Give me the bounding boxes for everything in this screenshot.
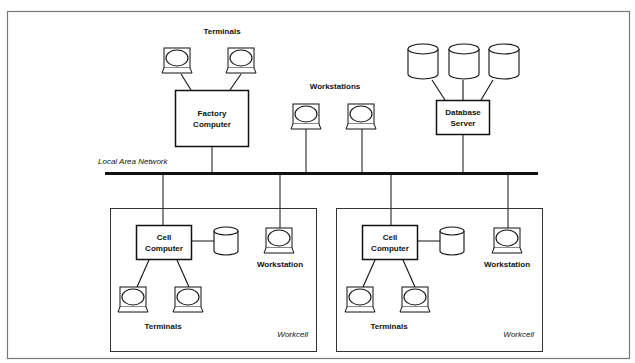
factory-computer-line1: Factory [193,108,231,119]
cell-computer-left-line2: Computer [145,243,183,254]
terminals-right-label: Terminals [359,322,419,332]
factory-computer-label: Factory Computer [176,91,248,146]
factory-computer-line2: Computer [193,119,231,130]
workcell-right-label: Workcell [484,330,534,340]
workstation-icons [291,104,376,129]
database-server-line2: Server [445,118,481,129]
workstations-label: Workstations [300,82,370,92]
terminals-left-label: Terminals [133,322,193,332]
workcell-left-label: Workcell [258,330,308,340]
database-disks [408,44,519,79]
cell-computer-right-line2: Computer [371,243,409,254]
outer-frame [8,12,630,359]
lan-label: Local Area Network [98,157,168,167]
cell-computer-left-label: Cell Computer [137,226,191,259]
cell-computer-left-line1: Cell [145,232,183,243]
database-server-line1: Database [445,107,481,118]
cell-computer-right-line1: Cell [371,232,409,243]
database-server-label: Database Server [437,101,489,134]
factory-terminals [162,48,256,73]
cell-computer-right-label: Cell Computer [363,226,417,259]
workstation-left-label: Workstation [250,260,310,270]
network-diagram [0,0,635,363]
workstation-right-label: Workstation [477,260,537,270]
factory-terminals-label: Terminals [192,27,252,37]
